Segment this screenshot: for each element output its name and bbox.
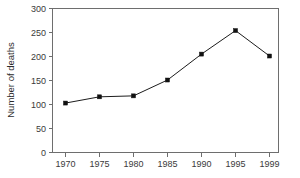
x-axis-tick-label-1995: 1995 xyxy=(225,159,245,169)
y-axis-tick-label-50: 50 xyxy=(36,124,46,134)
y-axis-tick-label-0: 0 xyxy=(41,148,46,158)
y-axis-tick-label-200: 200 xyxy=(31,52,46,62)
chart-figure: 0 50 100 150 200 250 300 1970 1975 1980 … xyxy=(0,0,300,178)
data-point xyxy=(234,29,238,33)
y-axis-title: Number of deaths xyxy=(5,42,16,118)
data-point xyxy=(268,54,272,58)
x-tick-marks xyxy=(66,153,270,157)
data-point xyxy=(200,52,204,56)
y-axis-tick-label-150: 150 xyxy=(31,76,46,86)
x-axis-tick-label-1970: 1970 xyxy=(55,159,75,169)
y-axis-tick-label-100: 100 xyxy=(31,100,46,110)
x-axis-tick-label-1975: 1975 xyxy=(89,159,109,169)
data-point xyxy=(132,94,136,98)
data-point xyxy=(98,95,102,99)
y-tick-marks xyxy=(49,9,53,153)
data-point xyxy=(64,101,68,105)
x-axis-tick-label-1985: 1985 xyxy=(157,159,177,169)
data-point xyxy=(166,78,170,82)
x-axis-tick-label-1980: 1980 xyxy=(123,159,143,169)
x-axis-tick-label-1990: 1990 xyxy=(191,159,211,169)
y-axis-tick-label-250: 250 xyxy=(31,28,46,38)
series-markers xyxy=(64,29,272,105)
y-axis-tick-label-300: 300 xyxy=(31,4,46,14)
x-axis-tick-label-1999: 1999 xyxy=(259,159,279,169)
line-chart: 0 50 100 150 200 250 300 1970 1975 1980 … xyxy=(0,0,300,178)
series-line xyxy=(66,31,270,103)
